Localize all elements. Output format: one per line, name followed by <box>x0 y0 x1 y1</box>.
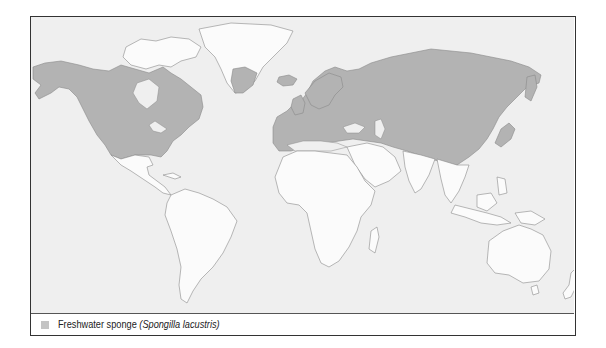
north-america-range <box>33 61 203 159</box>
legend-common-name: Freshwater sponge <box>58 319 139 330</box>
legend-scientific-name: (Spongilla lacustris) <box>139 319 219 330</box>
madagascar <box>369 227 379 253</box>
arctic-archipelago <box>123 37 201 69</box>
new-guinea <box>515 211 545 225</box>
legend: Freshwater sponge (Spongilla lacustris) <box>31 314 574 335</box>
philippines <box>497 177 507 195</box>
map-frame: Freshwater sponge (Spongilla lacustris) <box>30 16 576 336</box>
caribbean-islands <box>163 173 181 179</box>
iceland <box>277 75 297 86</box>
australia <box>487 225 551 283</box>
new-zealand <box>563 269 574 299</box>
japan <box>495 123 515 147</box>
world-map <box>31 17 574 314</box>
borneo <box>477 193 497 211</box>
greenland-range <box>231 67 257 93</box>
kamchatka <box>525 75 537 101</box>
world-map-svg <box>31 17 574 313</box>
mexico-central-america <box>111 155 171 195</box>
tasmania <box>531 285 539 295</box>
south-america <box>165 189 237 303</box>
legend-swatch <box>41 321 49 329</box>
mediterranean-sea <box>287 141 347 151</box>
southeast-asia <box>437 159 469 203</box>
legend-label: Freshwater sponge (Spongilla lacustris) <box>58 319 220 330</box>
